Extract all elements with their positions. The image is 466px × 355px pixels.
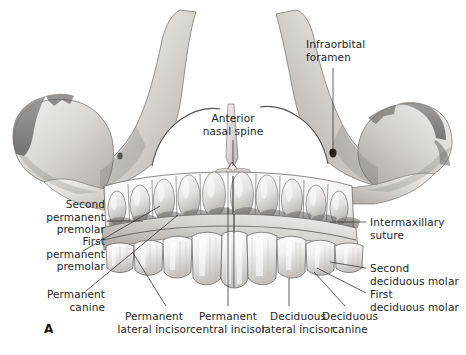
label-intermaxillary-suture: Intermaxillary suture — [370, 216, 466, 241]
label-deciduous-canine: Deciduous canine — [313, 310, 387, 335]
label-anterior-nasal-spine: Anterior nasal spine — [186, 112, 280, 137]
label-permanent-canine: Permanent canine — [5, 288, 105, 313]
label-infraorbital-foramen: Infraorbital foramen — [306, 38, 402, 63]
label-first-permanent-premolar: First permanent premolar — [5, 235, 105, 273]
leader-deciduous-canine — [314, 272, 345, 306]
label-second-deciduous-molar: Second deciduous molar — [370, 262, 466, 287]
anatomical-figure: Infraorbital foramen Anterior nasal spin… — [0, 0, 466, 355]
panel-letter: A — [44, 322, 53, 336]
label-second-permanent-premolar: Second permanent premolar — [5, 198, 105, 236]
leader-first-deciduous-molar — [317, 268, 366, 293]
